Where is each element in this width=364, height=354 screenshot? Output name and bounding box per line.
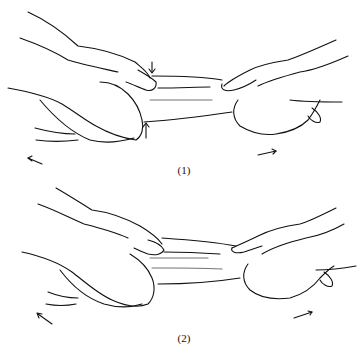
left-lower-hand xyxy=(8,82,143,140)
left-lower-hand-fingers xyxy=(60,270,142,307)
right-lower-wrist xyxy=(290,100,342,102)
left-lower-wrist xyxy=(36,140,78,142)
left-upper-forearm-lower-edge xyxy=(20,38,118,72)
right-upper-arm-lower-edge xyxy=(262,224,344,254)
panel-caption-1: (1) xyxy=(164,164,204,176)
left-upper-forearm-lower-edge xyxy=(38,204,128,238)
patient-forearm-top xyxy=(152,76,222,80)
traction-arrow-left xyxy=(38,314,52,324)
left-lower-hand-palm xyxy=(35,128,75,134)
patient-forearm-line-4 xyxy=(152,268,222,269)
left-upper-forearm xyxy=(56,188,162,244)
left-hand-thumb xyxy=(134,240,164,255)
left-lower-hand xyxy=(22,252,154,306)
right-lower-hand xyxy=(234,100,320,135)
traction-illustration-2 xyxy=(0,180,364,354)
panel-caption-2: (2) xyxy=(164,332,204,344)
patient-forearm-bottom xyxy=(144,112,232,122)
right-hand-fingers xyxy=(222,80,256,91)
traction-arrow-right xyxy=(294,312,312,318)
patient-forearm-line-2 xyxy=(158,87,210,88)
patient-forearm-line-2 xyxy=(164,252,220,254)
figure-panel-2: (2) xyxy=(0,180,364,354)
right-upper-arm xyxy=(232,208,336,248)
patient-forearm-bottom xyxy=(158,278,240,284)
traction-illustration-1 xyxy=(0,0,364,180)
right-lower-hand-thumb xyxy=(320,272,333,287)
right-lower-hand-thumb xyxy=(308,108,321,123)
left-lower-wrist-2 xyxy=(46,304,76,306)
figure-panel-1: (1) xyxy=(0,0,364,180)
patient-forearm-top xyxy=(162,238,236,246)
right-lower-wrist xyxy=(316,266,356,270)
left-lower-wrist xyxy=(48,292,78,298)
right-upper-arm xyxy=(224,40,336,86)
right-hand-fingers xyxy=(232,246,262,253)
right-upper-arm-lower-edge xyxy=(258,56,348,86)
left-upper-forearm xyxy=(28,12,150,78)
